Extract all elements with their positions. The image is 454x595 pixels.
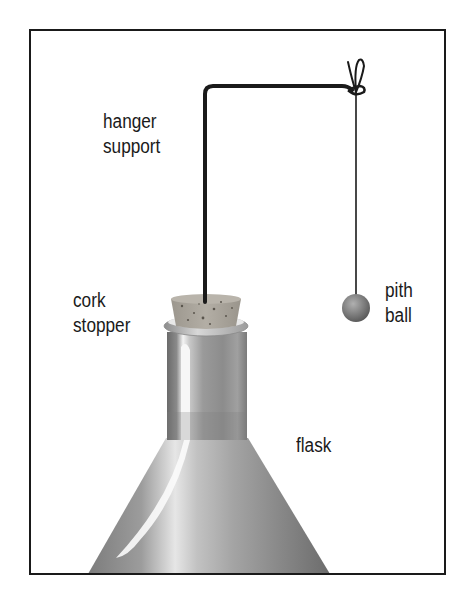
label-cork-stopper-line1: cork — [73, 288, 130, 313]
label-cork-stopper: cork stopper — [73, 288, 130, 338]
label-flask: flask — [296, 433, 331, 458]
label-pith-ball-line1: pith — [385, 278, 413, 303]
label-flask-line1: flask — [296, 433, 331, 458]
label-hanger-support: hanger support — [103, 109, 160, 159]
pith-ball — [342, 294, 370, 322]
label-pith-ball: pith ball — [385, 278, 413, 328]
neck-band — [167, 412, 247, 440]
label-cork-stopper-line2: stopper — [73, 313, 130, 338]
label-hanger-support-line2: support — [103, 134, 160, 159]
diagram-canvas: hanger support cork stopper pith ball fl… — [0, 0, 454, 595]
label-pith-ball-line2: ball — [385, 303, 413, 328]
label-hanger-support-line1: hanger — [103, 109, 160, 134]
